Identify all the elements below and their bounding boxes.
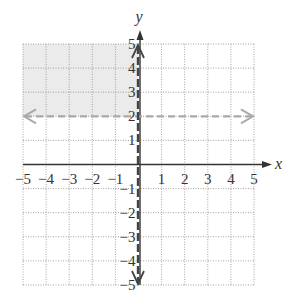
x-tick-label: 3 — [204, 171, 212, 187]
y-tick-label: 3 — [128, 84, 136, 100]
y-tick-label: 5 — [128, 36, 136, 52]
y-tick-label: 2 — [128, 108, 136, 124]
x-tick-label: −4 — [38, 171, 54, 187]
x-axis-label: x — [274, 155, 282, 172]
x-tick-label: 5 — [250, 171, 258, 187]
coordinate-plane: xy −5−4−3−2−11234554321−1−2−3−4−5 — [0, 0, 295, 308]
y-axis-arrow-icon — [137, 30, 144, 40]
x-tick-label: 1 — [158, 171, 166, 187]
y-tick-label: −5 — [120, 277, 136, 293]
x-tick-label: 2 — [181, 171, 189, 187]
shaded-area — [23, 44, 139, 116]
y-tick-label: −2 — [120, 205, 136, 221]
y-tick-label: 4 — [128, 60, 136, 76]
x-tick-label: 4 — [227, 171, 235, 187]
x-tick-label: −5 — [15, 171, 31, 187]
y-tick-label: −3 — [120, 229, 136, 245]
shaded-region — [23, 44, 139, 116]
y-tick-label: 1 — [128, 132, 136, 148]
y-axis-label: y — [134, 8, 144, 26]
y-tick-label: −4 — [120, 253, 136, 269]
x-axis-arrow-icon — [262, 161, 272, 168]
y-tick-label: −1 — [120, 181, 136, 197]
x-tick-label: −3 — [61, 171, 77, 187]
x-tick-label: −2 — [84, 171, 100, 187]
